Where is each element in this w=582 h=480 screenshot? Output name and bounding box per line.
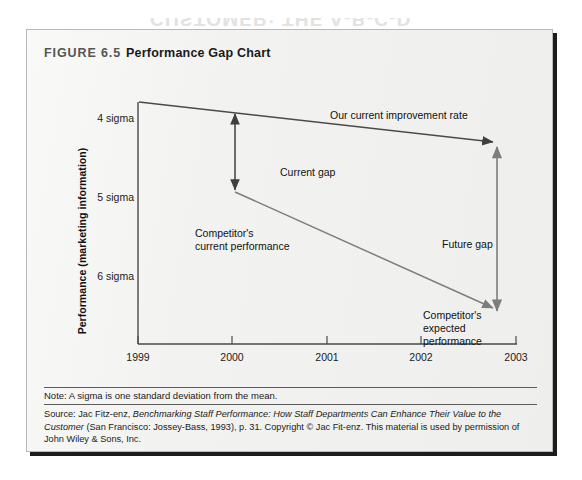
annotation-competitor-expected-line-3: performance: [423, 335, 482, 348]
figure-source: Source: Jac Fitz-enz, Benchmarking Staff…: [44, 408, 541, 446]
x-tick-label-2000: 2000: [207, 351, 257, 363]
note-divider-top: [44, 387, 537, 388]
figure-note: Note: A sigma is one standard deviation …: [44, 390, 277, 401]
x-tick-label-2001: 2001: [302, 351, 352, 363]
note-divider-bottom: [44, 404, 537, 405]
annotation-future-gap: Future gap: [442, 238, 493, 251]
x-tick-label-2002: 2002: [396, 351, 446, 363]
source-prefix: Source: Jac Fitz-enz,: [44, 409, 133, 419]
figure-box: FIGURE 6.5Performance Gap Chart: [26, 29, 553, 452]
annotation-competitor-current-line-1: Competitor's: [195, 227, 290, 240]
x-tick-label-2003: 2003: [491, 351, 541, 363]
annotation-competitor-expected-line-1: Competitor's: [423, 309, 482, 322]
annotation-competitor-current-line-2: current performance: [195, 240, 290, 253]
annotation-our-improvement-rate: Our current improvement rate: [330, 109, 468, 122]
annotation-competitor-current-performance: Competitor's current performance: [195, 227, 290, 253]
figure-number: FIGURE 6.5: [44, 46, 121, 60]
figure-title-text: Performance Gap Chart: [126, 46, 271, 60]
annotation-competitor-expected-performance: Competitor's expected performance: [423, 309, 482, 348]
figure-title: FIGURE 6.5Performance Gap Chart: [44, 46, 271, 60]
annotation-current-gap: Current gap: [280, 166, 335, 179]
source-suffix: (San Francisco: Jossey-Bass, 1993), p. 3…: [44, 422, 519, 445]
x-tick-label-1999: 1999: [113, 351, 163, 363]
annotation-competitor-expected-line-2: expected: [423, 322, 482, 335]
